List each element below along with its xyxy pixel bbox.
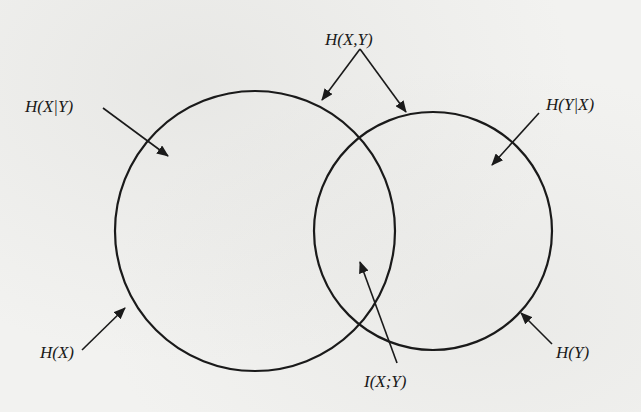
circle-y [314,112,552,350]
arrow-icon [492,113,539,165]
label-entropy-y: H(Y) [556,344,589,361]
label-entropy-x: H(X) [40,344,74,361]
label-conditional-y-given-x: H(Y|X) [546,96,594,113]
arrow-icon [521,313,552,344]
label-entropy-x-text: H(X) [40,343,74,362]
label-mutual-information: I(X;Y) [364,373,406,390]
arrow-icon [360,49,406,112]
arrow-icon [82,308,125,350]
label-joint-entropy-text: H(X,Y) [325,30,373,49]
label-conditional-y-given-x-text: H(Y|X) [546,95,594,114]
label-conditional-x-given-y: H(X|Y) [25,98,73,115]
venn-diagram [0,0,641,412]
circle-x [115,91,395,371]
circles-layer [115,91,552,371]
label-conditional-x-given-y-text: H(X|Y) [25,97,73,116]
label-joint-entropy: H(X,Y) [325,31,373,48]
arrow-icon [322,49,360,100]
label-entropy-y-text: H(Y) [556,343,589,362]
arrow-icon [103,108,168,156]
arrow-icon [360,262,397,363]
label-mutual-information-text: I(X;Y) [364,372,406,391]
